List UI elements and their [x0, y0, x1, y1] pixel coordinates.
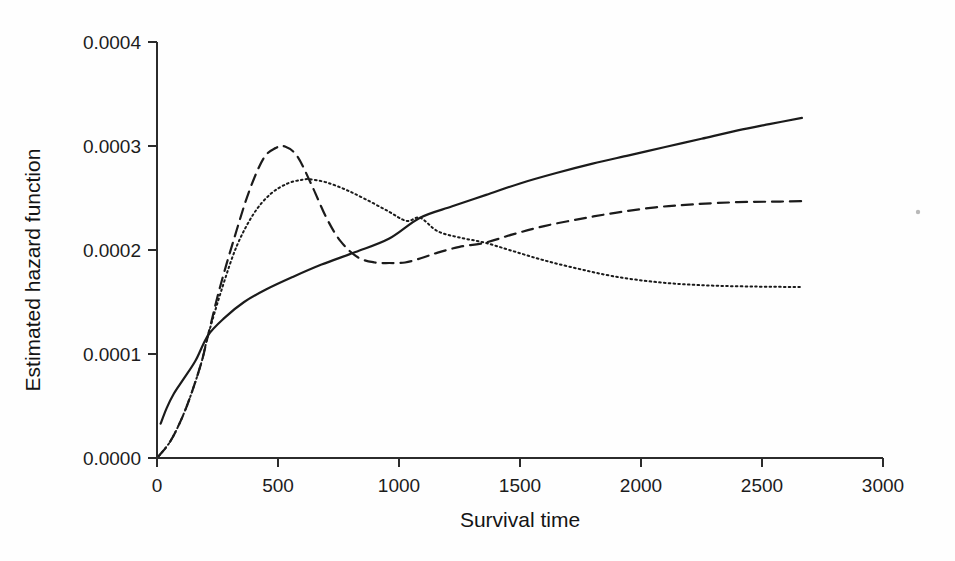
x-tick-label: 1000: [378, 475, 420, 496]
y-axis-title: Estimated hazard function: [21, 149, 44, 392]
y-tick-label: 0.0002: [83, 240, 141, 261]
x-axis-title: Survival time: [460, 508, 580, 531]
x-tick-label: 0: [152, 475, 163, 496]
dashed-hazard-estimate: [159, 146, 802, 456]
y-tick-label: 0.0004: [83, 32, 142, 53]
x-tick-label: 3000: [862, 475, 904, 496]
x-tick-label: 1500: [499, 475, 541, 496]
y-tick-label: 0.0003: [83, 136, 141, 157]
x-tick-label: 2000: [620, 475, 662, 496]
solid-hazard-estimate: [161, 118, 802, 424]
scan-artifact-speck: [916, 210, 920, 214]
x-tick-label: 500: [262, 475, 294, 496]
figure-container: 0500100015002000250030000.00000.00010.00…: [0, 0, 955, 561]
hazard-function-chart: 0500100015002000250030000.00000.00010.00…: [0, 0, 955, 561]
y-tick-label: 0.0000: [83, 448, 141, 469]
dotted-hazard-estimate: [159, 179, 802, 456]
y-tick-label: 0.0001: [83, 344, 141, 365]
axes-layer: 0500100015002000250030000.00000.00010.00…: [83, 32, 904, 496]
series-layer: [159, 118, 802, 456]
x-tick-label: 2500: [741, 475, 783, 496]
